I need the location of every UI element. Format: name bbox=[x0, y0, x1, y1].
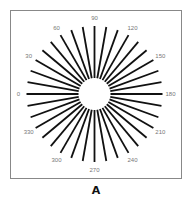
dial-label-330: 330 bbox=[24, 129, 35, 135]
figure-caption: A bbox=[0, 184, 192, 197]
dial-label-90: 90 bbox=[91, 15, 98, 21]
dial-label-180: 180 bbox=[165, 91, 176, 97]
dial-label-60: 60 bbox=[53, 25, 60, 31]
dial-label-240: 240 bbox=[127, 157, 138, 163]
dial-label-210: 210 bbox=[155, 129, 166, 135]
astigmatism-dial: 0306090120150180210240270300330 bbox=[0, 0, 192, 202]
dial-label-270: 270 bbox=[89, 167, 100, 173]
dial-label-150: 150 bbox=[155, 53, 166, 59]
dial-label-30: 30 bbox=[25, 53, 32, 59]
dial-label-300: 300 bbox=[51, 157, 62, 163]
dial-label-120: 120 bbox=[127, 25, 138, 31]
